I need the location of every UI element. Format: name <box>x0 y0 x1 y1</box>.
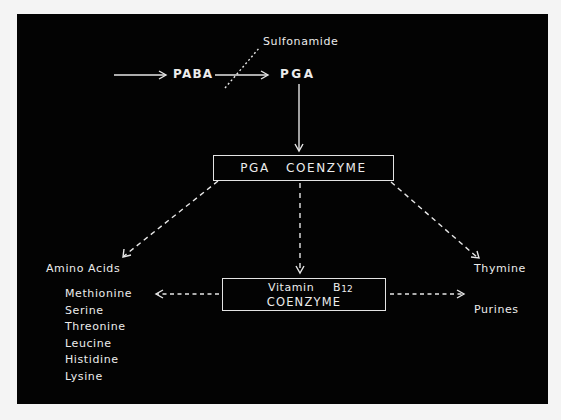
pga-coenzyme-label: PGA COENZYME <box>214 161 393 175</box>
vitamin-label: Vitamin <box>268 281 314 294</box>
amino-acids-label: Amino Acids <box>46 262 120 275</box>
thymine-label: Thymine <box>474 262 526 275</box>
vitamin-b12-coenzyme-box: Vitamin B12 COENZYME <box>222 278 386 311</box>
amino-acid-item: Methionine <box>65 287 132 304</box>
amino-acid-item: Histidine <box>65 353 132 370</box>
paba-node: PABA <box>173 67 213 81</box>
b12-subscript: 12 <box>341 284 352 294</box>
amino-acid-list: Methionine Serine Threonine Leucine Hist… <box>65 287 132 386</box>
pga-node: PGA <box>280 67 315 81</box>
amino-acid-item: Leucine <box>65 337 132 354</box>
coenzyme-label: COENZYME <box>223 295 385 309</box>
amino-acid-item: Threonine <box>65 320 132 337</box>
sulfonamide-label: Sulfonamide <box>263 35 338 48</box>
purines-label: Purines <box>474 303 519 316</box>
pga-coenzyme-box: PGA COENZYME <box>213 155 394 181</box>
b12-label: B12 <box>333 281 353 294</box>
amino-acid-item: Serine <box>65 304 132 321</box>
b12-letter: B <box>333 281 341 294</box>
amino-acid-item: Lysine <box>65 370 132 387</box>
